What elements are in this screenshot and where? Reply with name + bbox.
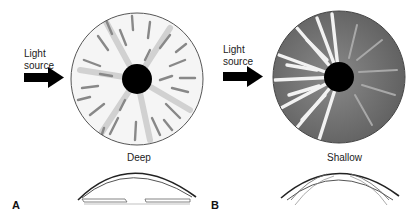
- depth-label-shallow: Shallow: [327, 152, 362, 163]
- panel-a-deep-chamber: Light source: [0, 0, 208, 224]
- depth-label-deep: Deep: [127, 152, 151, 163]
- deep-chamber-cross-section: [78, 173, 196, 204]
- panel-b-shallow-chamber: Light source: [207, 0, 415, 224]
- iris-shallow: [273, 11, 405, 143]
- panel-letter-b: B: [211, 199, 219, 211]
- panel-a-illustration: [0, 0, 208, 224]
- shallow-chamber-cross-section: [281, 173, 399, 205]
- light-arrow-icon: [24, 67, 64, 88]
- panel-letter-a: A: [12, 199, 20, 211]
- light-arrow-icon: [223, 66, 263, 87]
- panel-b-illustration: [207, 0, 417, 224]
- iris-deep: [71, 13, 203, 145]
